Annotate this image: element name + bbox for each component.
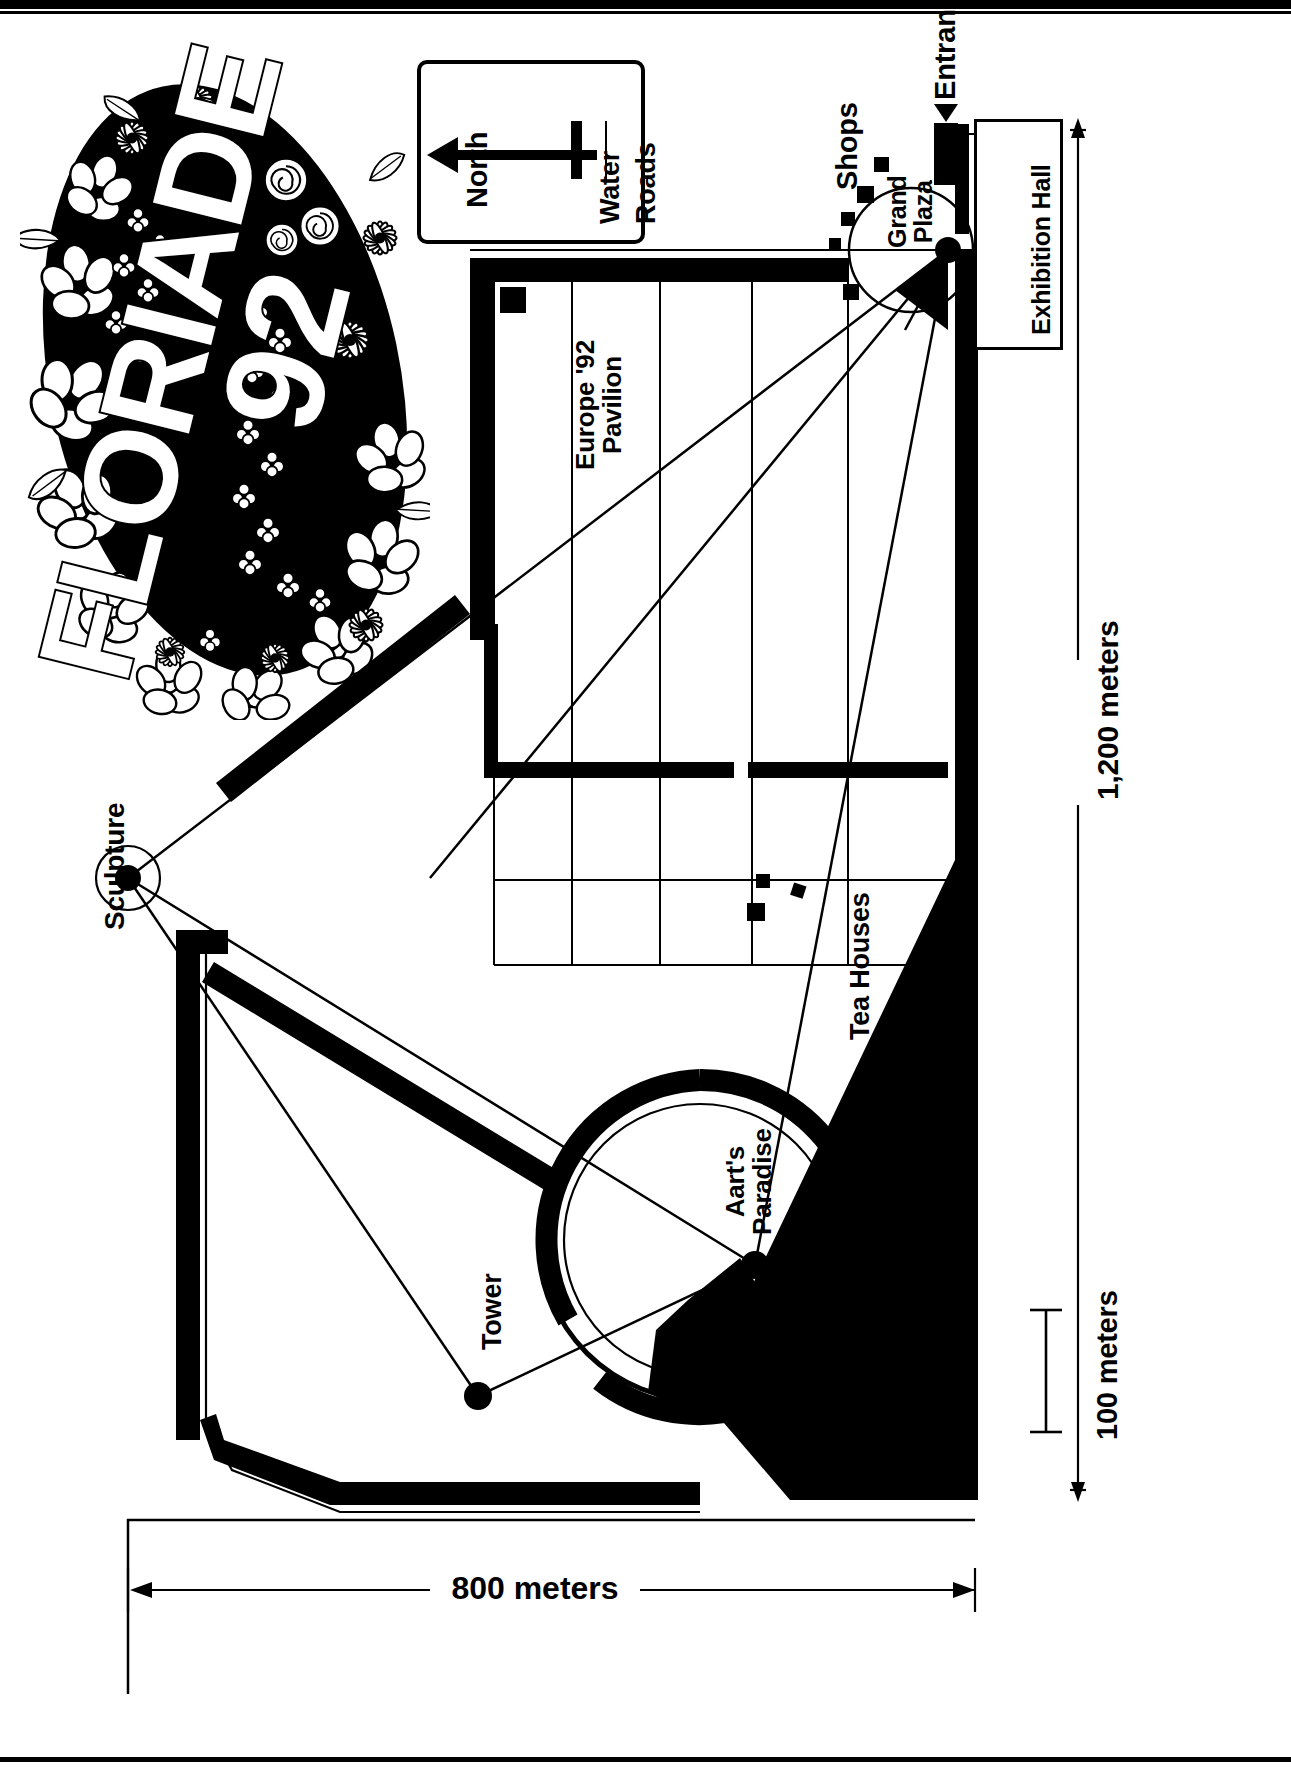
label-entrance: Entrance <box>930 0 960 100</box>
dim-arrow-right <box>953 1582 975 1598</box>
entrance-arrow-icon <box>934 104 958 122</box>
entrance-gate <box>934 123 958 185</box>
dimension-height <box>1070 130 1086 1490</box>
label-grand-plaza-line1: Grand <box>883 175 911 248</box>
label-europe-pavilion-line1: Europe '92 <box>570 340 600 470</box>
west-park-walls <box>176 930 700 1505</box>
tea-houses-cluster <box>747 874 807 921</box>
label-art-pavilion-line1: Art <box>887 1390 915 1426</box>
scale-bar-label: 100 meters <box>1092 1290 1122 1440</box>
label-aarts-paradise-line1: Aart's <box>720 1146 750 1217</box>
dimension-width-label: 800 meters <box>430 1570 640 1607</box>
label-aarts-paradise: Aart's Paradise <box>722 1128 777 1235</box>
label-grand-plaza-line2: Plaza <box>909 180 937 243</box>
dim-arrow-bottom <box>1071 1482 1085 1502</box>
north-boulevard <box>216 595 470 802</box>
hub-node-grand-plaza <box>935 237 961 263</box>
hub-node-tower <box>464 1382 492 1410</box>
label-shops: Shops <box>832 102 862 190</box>
label-grand-plaza: Grand Plaza <box>884 175 937 248</box>
dim-arrow-left <box>130 1582 152 1598</box>
hub-node-aarts-paradise <box>741 1251 769 1279</box>
label-art-pavilion: Art Pavilion <box>888 1361 941 1455</box>
label-exhibition-hall: Exhibition Hall <box>1028 164 1054 335</box>
label-tea-houses: Tea Houses <box>846 892 874 1040</box>
label-europe-pavilion-line2: Pavilion <box>597 356 627 454</box>
label-tower: Tower <box>478 1273 506 1350</box>
scale-bar <box>1030 1310 1062 1432</box>
map-canvas <box>0 0 1291 1769</box>
label-aarts-paradise-line2: Paradise <box>747 1128 777 1235</box>
site-boundary <box>128 1520 975 1694</box>
label-europe-pavilion: Europe '92 Pavilion <box>572 340 627 470</box>
label-art-pavilion-line2: Pavilion <box>913 1361 941 1455</box>
dimension-height-label: 1,200 meters <box>1092 621 1124 800</box>
dim-arrow-top <box>1071 118 1085 138</box>
plaza-wedge <box>895 250 948 330</box>
label-sculpture: Sculpture <box>100 803 129 930</box>
map-page: FLORIADE 92 North Water Roads <box>0 0 1291 1769</box>
pavilion-building-marker <box>500 287 526 313</box>
